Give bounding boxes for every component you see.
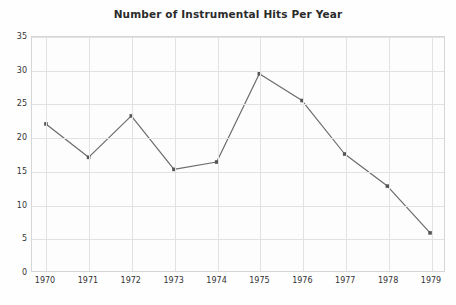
line-series	[32, 37, 444, 271]
gridline-vertical	[432, 37, 433, 271]
y-axis-tick-label: 20	[3, 133, 27, 142]
gridline-vertical	[175, 37, 176, 271]
gridline-vertical	[132, 37, 133, 271]
gridline-vertical	[346, 37, 347, 271]
y-axis-tick-label: 30	[3, 65, 27, 74]
gridline-vertical	[46, 37, 47, 271]
x-axis-tick-label: 1972	[121, 276, 141, 285]
y-axis-tick-label: 10	[3, 200, 27, 209]
x-axis-tick-label: 1971	[78, 276, 98, 285]
x-axis-tick-label: 1970	[35, 276, 55, 285]
y-axis: 05101520253035	[0, 36, 27, 272]
series-line	[46, 74, 430, 233]
gridline-vertical	[303, 37, 304, 271]
x-axis-tick-label: 1978	[378, 276, 398, 285]
gridline-horizontal	[32, 104, 444, 105]
x-axis-tick-label: 1979	[421, 276, 441, 285]
y-axis-tick-label: 35	[3, 32, 27, 41]
x-axis-tick-label: 1973	[163, 276, 183, 285]
y-axis-tick-label: 0	[3, 268, 27, 277]
y-axis-tick-label: 15	[3, 166, 27, 175]
chart-title: Number of Instrumental Hits Per Year	[0, 8, 456, 20]
gridline-vertical	[89, 37, 90, 271]
gridline-horizontal	[32, 71, 444, 72]
x-axis-tick-label: 1974	[206, 276, 226, 285]
gridline-vertical	[260, 37, 261, 271]
gridline-horizontal	[32, 138, 444, 139]
gridline-horizontal	[32, 239, 444, 240]
plot-area	[31, 36, 445, 272]
gridline-vertical	[218, 37, 219, 271]
x-axis-tick-label: 1975	[249, 276, 269, 285]
y-axis-tick-label: 5	[3, 234, 27, 243]
gridline-horizontal	[32, 37, 444, 38]
x-axis-tick-label: 1976	[292, 276, 312, 285]
y-axis-tick-label: 25	[3, 99, 27, 108]
x-axis: 1970197119721973197419751976197719781979	[31, 276, 445, 292]
x-axis-tick-label: 1977	[335, 276, 355, 285]
gridline-horizontal	[32, 172, 444, 173]
gridline-horizontal	[32, 206, 444, 207]
chart-container: Number of Instrumental Hits Per Year 051…	[0, 0, 456, 305]
gridline-vertical	[389, 37, 390, 271]
